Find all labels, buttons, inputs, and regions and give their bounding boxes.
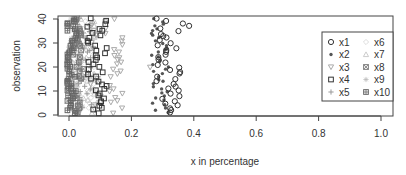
y-axis-label: observation (11, 40, 22, 92)
legend-label: x1 (339, 37, 350, 48)
data-point-x2 (164, 67, 167, 70)
legend-label: x7 (374, 49, 385, 60)
x-tick-label: 0.4 (187, 128, 201, 139)
data-point-x1 (174, 46, 179, 51)
data-point-x2 (151, 29, 154, 32)
data-point-x1 (163, 60, 168, 65)
data-point-x3 (112, 17, 117, 22)
data-point-x2 (154, 39, 157, 42)
data-point-x1 (164, 35, 169, 40)
data-point-x3 (107, 89, 112, 94)
data-point-x1 (177, 94, 182, 99)
legend: x1x2x3x4x5x6x7x8x9x10 (322, 32, 393, 101)
data-point-x2 (164, 106, 167, 109)
legend-label: x3 (339, 62, 350, 73)
x-tick-label: 0.6 (249, 128, 263, 139)
y-axis: 010203040 (37, 13, 58, 118)
data-point-x2 (161, 72, 164, 75)
data-point-x3 (119, 106, 124, 111)
data-point-x3 (115, 72, 120, 77)
data-point-x1 (180, 21, 185, 26)
data-point-x1 (155, 43, 160, 48)
legend-label: x2 (339, 49, 350, 60)
data-point-x1 (155, 62, 160, 67)
data-point-x4 (88, 16, 93, 21)
data-point-x2 (160, 91, 163, 94)
y-tick-label: 20 (37, 61, 48, 73)
data-point-x1 (168, 41, 173, 46)
data-point-x4 (103, 51, 108, 56)
data-point-x3 (108, 75, 113, 80)
data-point-x3 (111, 111, 116, 116)
data-point-x1 (166, 86, 171, 91)
x-tick-label: 0.0 (62, 128, 76, 139)
data-point-x2 (161, 80, 164, 83)
data-point-x2 (154, 109, 157, 112)
y-tick-label: 40 (37, 13, 48, 25)
x-tick-label: 1.0 (374, 128, 388, 139)
data-point-x1 (168, 91, 173, 96)
data-point-x1 (176, 28, 181, 33)
data-point-x4 (96, 111, 101, 116)
x-axis-label: x in percentage (191, 156, 260, 167)
data-point-x4 (100, 70, 105, 75)
data-point-x2 (152, 70, 155, 73)
legend-label: x9 (374, 74, 385, 85)
data-point-x7 (89, 111, 94, 116)
legend-label: x10 (374, 87, 391, 98)
legend-label: x6 (374, 37, 385, 48)
data-point-x2 (154, 96, 157, 99)
y-tick-label: 10 (37, 85, 48, 97)
data-point-x1 (164, 18, 169, 23)
data-point-x3 (120, 91, 125, 96)
y-tick-label: 0 (37, 112, 48, 118)
data-point-x2 (157, 50, 160, 53)
data-point-x2 (151, 101, 154, 104)
data-point-x3 (108, 100, 113, 105)
legend-label: x5 (339, 87, 350, 98)
legend-label: x8 (374, 62, 385, 73)
data-point-x2 (150, 54, 153, 57)
data-point-x1 (167, 67, 172, 72)
data-point-x3 (112, 48, 117, 53)
data-point-x4 (104, 46, 109, 51)
data-point-x3 (111, 67, 116, 72)
data-point-x3 (114, 62, 119, 67)
data-point-x3 (113, 96, 118, 101)
data-point-x2 (152, 85, 155, 88)
data-points (65, 16, 192, 116)
data-point-x4 (97, 65, 102, 70)
data-point-x1 (187, 23, 192, 28)
x-axis: 0.00.20.40.60.81.0 (62, 116, 388, 139)
y-tick-label: 30 (37, 37, 48, 49)
x-tick-label: 0.2 (124, 128, 138, 139)
scatter-chart: 0.00.20.40.60.81.0 010203040 x in percen… (0, 0, 406, 175)
data-point-x2 (165, 44, 168, 47)
legend-label: x4 (339, 74, 350, 85)
data-point-x3 (103, 31, 108, 36)
data-point-x2 (151, 63, 154, 66)
x-tick-label: 0.8 (312, 128, 326, 139)
data-point-x2 (153, 24, 156, 27)
data-point-x2 (160, 87, 163, 90)
data-point-x1 (172, 99, 177, 104)
data-point-x1 (173, 76, 178, 81)
